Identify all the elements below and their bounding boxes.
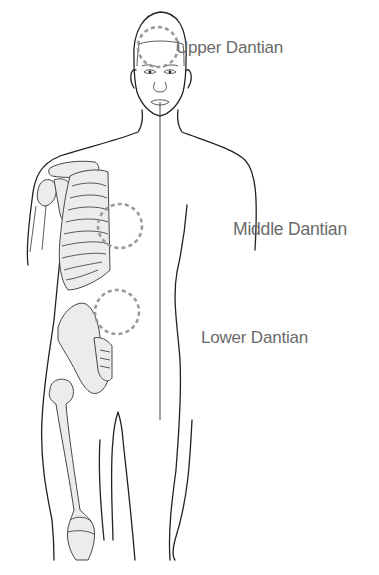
body-illustration xyxy=(0,0,379,575)
upper-dantian-marker xyxy=(138,27,178,67)
lower-dantian-marker xyxy=(95,290,139,334)
lower-dantian-label: Lower Dantian xyxy=(201,328,308,348)
middle-dantian-label: Middle Dantian xyxy=(233,219,347,240)
upper-dantian-label: Upper Dantian xyxy=(176,38,283,58)
ribcage-skeleton xyxy=(30,161,110,290)
dantian-diagram: Upper Dantian Middle Dantian Lower Danti… xyxy=(0,0,379,575)
